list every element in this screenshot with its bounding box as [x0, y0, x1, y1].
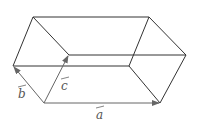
label-b: b	[18, 85, 26, 101]
label-c: c	[61, 77, 69, 93]
label-a: a	[96, 106, 104, 122]
vectors	[14, 56, 159, 103]
edges	[13, 17, 186, 103]
parallelepiped-diagram: a b c	[0, 0, 198, 126]
diagram-canvas: a b c	[0, 0, 198, 126]
svg-text:b: b	[18, 87, 26, 101]
svg-text:a: a	[96, 108, 103, 122]
svg-text:c: c	[61, 79, 68, 93]
